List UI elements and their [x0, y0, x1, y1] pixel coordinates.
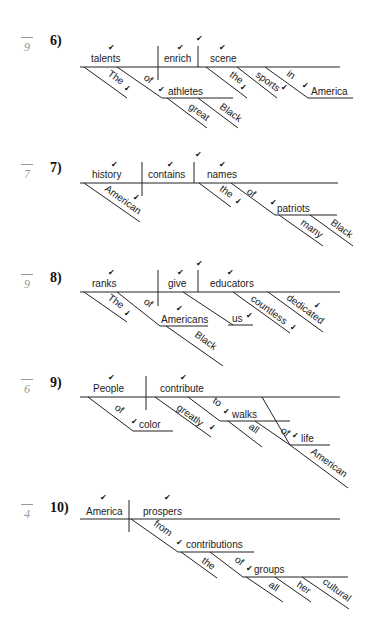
diagram-modifier-word: the: [200, 555, 218, 572]
diagram-modifier-word: cultural: [321, 576, 354, 604]
checkmark-icon: ✔: [100, 493, 107, 502]
checkmark-icon: ✔: [164, 493, 171, 502]
sentence-diagram: Americaprosperscontributionsgroupsfromth…: [0, 0, 370, 640]
diagram-word: groups: [254, 564, 285, 575]
diagram-modifier-word: her: [295, 579, 314, 597]
diagram-word: contributions: [186, 539, 243, 550]
checkmark-icon: ✔: [246, 564, 253, 573]
diagram-modifier-word: from: [152, 518, 175, 539]
diagram-word: prospers: [143, 506, 182, 517]
diagram-modifier-word: of: [233, 554, 246, 568]
diagram-modifier-word: all: [267, 579, 282, 594]
checkmark-icon: ✔: [176, 538, 183, 547]
diagram-word: America: [86, 506, 123, 517]
